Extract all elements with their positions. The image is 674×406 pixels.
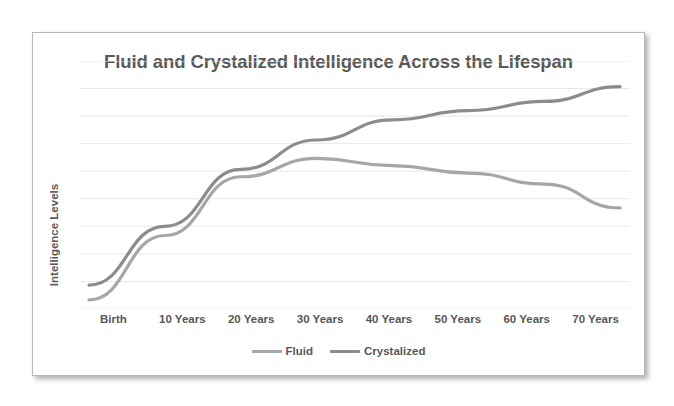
x-tick-label-4: 40 Years [355,313,424,331]
chart-legend: FluidCrystalized [33,345,644,357]
legend-swatch-icon [330,350,360,353]
legend-label: Fluid [286,345,313,357]
plot-area [79,61,630,309]
x-tick-label-3: 30 Years [286,313,355,331]
series-lines [89,87,620,300]
series-line-fluid [89,158,620,299]
x-tick-label-7: 70 Years [561,313,630,331]
line-chart-svg [79,61,630,309]
legend-entry-fluid[interactable]: Fluid [252,345,313,357]
y-axis-title: Intelligence Levels [48,165,60,305]
x-tick-label-6: 60 Years [492,313,561,331]
x-tick-label-5: 50 Years [423,313,492,331]
x-axis-tick-labels: Birth10 Years20 Years30 Years40 Years50 … [79,313,630,331]
legend-entry-crystalized[interactable]: Crystalized [330,345,425,357]
x-tick-label-1: 10 Years [148,313,217,331]
x-tick-label-2: 20 Years [217,313,286,331]
chart-card: Fluid and Crystalized Intelligence Acros… [32,32,645,376]
x-tick-label-0: Birth [79,313,148,331]
legend-swatch-icon [252,350,282,353]
legend-label: Crystalized [364,345,425,357]
